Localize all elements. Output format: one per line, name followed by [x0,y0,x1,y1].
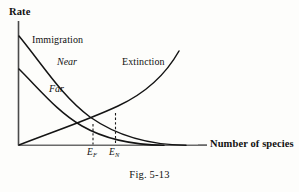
curve-label-immigration: Immigration [32,35,83,45]
figure-container: Rate Number of species Immigration Extin… [0,0,299,192]
y-axis-label: Rate [9,7,30,18]
curve-label-near: Near [57,57,77,67]
equilibrium-symbol-en: E [109,147,115,157]
equilibrium-symbol-ef: E [87,147,93,157]
equilibrium-label-en: EN [109,148,119,158]
figure-caption: Fig. 5-13 [0,170,299,181]
equilibrium-label-ef: EF [87,148,97,158]
curve-near-immigration [19,36,186,145]
plot-area [0,0,299,192]
x-axis-label: Number of species [210,139,294,150]
curve-far-immigration [19,69,164,145]
equilibrium-subscript-ef: F [93,151,97,158]
equilibrium-subscript-en: N [115,151,119,158]
curve-label-extinction: Extinction [122,57,165,67]
curve-label-far: Far [49,84,64,94]
